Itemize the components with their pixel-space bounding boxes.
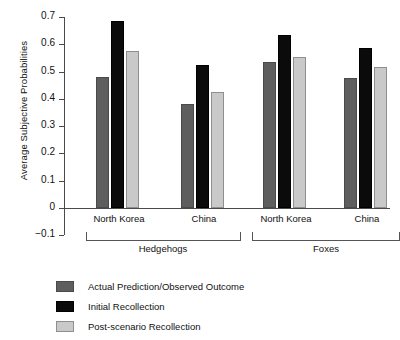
y-tick bbox=[59, 17, 64, 18]
legend-item: Actual Prediction/Observed Outcome bbox=[56, 278, 386, 294]
bar bbox=[126, 51, 139, 208]
y-tick-label: −0.1 bbox=[15, 228, 55, 239]
legend-label: Actual Prediction/Observed Outcome bbox=[88, 281, 244, 292]
x-axis-line bbox=[64, 208, 390, 209]
y-tick-label: 0.2 bbox=[15, 146, 55, 157]
plot-area: 0.7 0.6 0.5 0.4 0.3 0.2 0.1 0 −0.1 North… bbox=[64, 17, 390, 235]
legend-swatch-icon bbox=[56, 321, 74, 332]
y-tick-label: 0 bbox=[15, 201, 55, 212]
y-tick-label: 0.7 bbox=[15, 10, 55, 21]
group-bracket bbox=[252, 232, 400, 241]
bar bbox=[111, 21, 124, 208]
y-tick bbox=[59, 181, 64, 182]
y-tick-label: 0.3 bbox=[15, 119, 55, 130]
legend-label: Initial Recollection bbox=[88, 301, 165, 312]
y-tick bbox=[59, 99, 64, 100]
x-category-label: China bbox=[355, 213, 380, 224]
legend-swatch-icon bbox=[56, 301, 74, 312]
legend-swatch-icon bbox=[56, 281, 74, 292]
legend-label: Post-scenario Recollection bbox=[88, 321, 200, 332]
bar bbox=[344, 78, 357, 208]
group-bracket bbox=[86, 232, 241, 241]
y-tick-label: 0.6 bbox=[15, 37, 55, 48]
bar bbox=[263, 62, 276, 208]
bar bbox=[181, 104, 194, 208]
y-tick bbox=[59, 208, 64, 209]
bar bbox=[374, 67, 387, 208]
y-tick bbox=[59, 153, 64, 154]
x-category-label: North Korea bbox=[93, 213, 144, 224]
y-tick bbox=[59, 235, 64, 236]
y-tick bbox=[59, 126, 64, 127]
legend-item: Initial Recollection bbox=[56, 298, 386, 314]
y-axis-line bbox=[64, 17, 65, 235]
y-tick bbox=[59, 44, 64, 45]
bar bbox=[278, 35, 291, 208]
bar bbox=[211, 92, 224, 208]
legend-item: Post-scenario Recollection bbox=[56, 318, 386, 334]
y-tick-label: 0.1 bbox=[15, 174, 55, 185]
y-tick-label: 0.5 bbox=[15, 65, 55, 76]
bar bbox=[359, 48, 372, 208]
x-category-label: China bbox=[192, 213, 217, 224]
y-tick bbox=[59, 72, 64, 73]
bar bbox=[293, 57, 306, 208]
bar bbox=[96, 77, 109, 208]
group-label: Foxes bbox=[313, 243, 339, 254]
y-tick-label: 0.4 bbox=[15, 92, 55, 103]
bar bbox=[196, 65, 209, 208]
group-label: Hedgehogs bbox=[139, 243, 188, 254]
x-category-label: North Korea bbox=[260, 213, 311, 224]
legend: Actual Prediction/Observed Outcome Initi… bbox=[56, 278, 386, 338]
